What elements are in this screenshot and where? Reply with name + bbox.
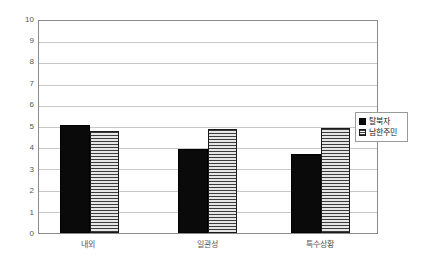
x-label-2: 특수상황 (280, 240, 360, 249)
bar-chart: 10 9 8 7 6 5 4 3 2 1 0 내외 일관성 특수상황 (0, 0, 425, 270)
bar-group-0-series-0 (60, 125, 90, 233)
bar-group-2-series-0 (291, 154, 321, 234)
gridline-7 (39, 85, 377, 86)
gridline-6 (39, 106, 377, 107)
y-tick-4: 4 (8, 144, 34, 152)
legend-label-1: 남한주민 (369, 128, 397, 137)
bar-group-0-series-1 (90, 131, 119, 233)
y-tick-2: 2 (8, 187, 34, 195)
chart-legend: 탈북자 남한주민 (355, 112, 408, 142)
y-tick-0: 0 (8, 230, 34, 238)
y-tick-6: 6 (8, 101, 34, 109)
y-tick-5: 5 (8, 123, 34, 131)
y-tick-1: 1 (8, 209, 34, 217)
y-tick-3: 3 (8, 166, 34, 174)
x-label-0: 내외 (48, 240, 128, 249)
x-label-1: 일관성 (167, 240, 247, 249)
legend-striped-swatch-icon (359, 129, 366, 136)
gridline-9 (39, 42, 377, 43)
y-tick-8: 8 (8, 58, 34, 66)
bar-group-1-series-0 (178, 149, 208, 233)
y-tick-9: 9 (8, 37, 34, 45)
gridline-8 (39, 63, 377, 64)
y-tick-10: 10 (8, 16, 34, 24)
plot-area (38, 20, 378, 234)
legend-label-0: 탈북자 (369, 117, 390, 126)
legend-item-1: 남한주민 (359, 127, 404, 138)
legend-solid-swatch-icon (359, 118, 366, 125)
bar-group-2-series-1 (321, 128, 350, 233)
y-tick-7: 7 (8, 80, 34, 88)
bar-group-1-series-1 (208, 129, 237, 233)
legend-item-0: 탈북자 (359, 116, 404, 127)
